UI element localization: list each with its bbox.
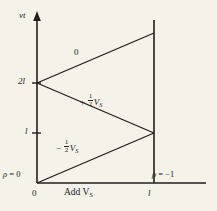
- second-wave-line: [37, 33, 154, 83]
- bottom-wave-denominator: 2: [64, 146, 70, 154]
- middle-wave-label: + 1 2 VS: [80, 93, 103, 108]
- rho-symbol-left: ρ: [3, 169, 7, 179]
- incident-wave-line: [37, 133, 154, 183]
- rho-symbol-right: ρ: [152, 169, 156, 179]
- bottom-wave-subscript: S: [75, 147, 78, 154]
- x-tick-label-0: 0: [32, 189, 37, 198]
- x-axis-caption: Add VS: [64, 188, 93, 199]
- y-axis-label: vt: [19, 11, 26, 20]
- y-axis-arrow-icon: [33, 11, 41, 21]
- bottom-wave-fraction: 1 2: [64, 139, 70, 154]
- bottom-wave-numerator: 1: [64, 139, 70, 146]
- source-reflection-coefficient-label: ρ = 0: [3, 170, 20, 179]
- equals-sign-right: =: [158, 169, 163, 179]
- middle-wave-fraction: 1 2: [88, 93, 94, 108]
- rho-value-right: −1: [165, 169, 174, 179]
- equals-sign-left: =: [9, 169, 14, 179]
- x-axis-caption-text: Add V: [64, 187, 89, 197]
- middle-wave-denominator: 2: [88, 100, 94, 108]
- middle-wave-subscript: S: [99, 101, 102, 108]
- middle-wave-sign: +: [80, 97, 85, 107]
- diagram-canvas: [0, 0, 217, 211]
- y-tick-2l-text: 2l: [18, 76, 25, 86]
- top-wave-label: 0: [74, 48, 79, 57]
- rho-value-left: 0: [16, 169, 20, 179]
- bounce-diagram-figure: vt 2l l ρ = 0 ρ = −1 0 l Add VS 0 + 1 2 …: [0, 0, 217, 211]
- x-tick-label-l: l: [148, 189, 151, 198]
- bottom-wave-sign: −: [56, 143, 61, 153]
- load-reflection-coefficient-label: ρ = −1: [152, 170, 174, 179]
- bottom-wave-label: − 1 2 VS: [56, 139, 79, 154]
- middle-wave-numerator: 1: [88, 93, 94, 100]
- y-tick-label-2l: 2l: [18, 77, 25, 86]
- y-tick-label-l: l: [25, 127, 28, 136]
- x-axis-caption-subscript: S: [89, 191, 92, 198]
